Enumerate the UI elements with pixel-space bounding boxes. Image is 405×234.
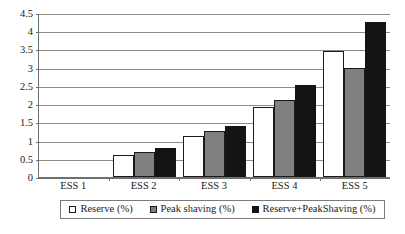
legend-entry: Peak shaving (%) bbox=[150, 204, 235, 215]
y-axis-tick-label: 2 bbox=[5, 100, 33, 111]
gray-square-icon bbox=[150, 206, 157, 213]
y-axis-tick-label: 1 bbox=[5, 136, 33, 147]
y-axis-tick-label: 4.5 bbox=[5, 9, 33, 20]
bar bbox=[295, 85, 316, 177]
x-axis-tick-labels: ESS 1ESS 2ESS 3ESS 4ESS 5 bbox=[38, 180, 390, 193]
x-axis-tick-label: ESS 2 bbox=[108, 180, 178, 193]
bar-group-ess-1 bbox=[39, 14, 109, 177]
legend-label: Reserve (%) bbox=[80, 204, 132, 215]
y-axis-tick-mark bbox=[36, 178, 39, 179]
bar bbox=[183, 136, 204, 177]
bar-groups bbox=[39, 14, 390, 177]
legend-entry: Reserve+PeakShaving (%) bbox=[252, 204, 376, 215]
y-axis-tick-label: 2.5 bbox=[5, 82, 33, 93]
bar-group-ess-2 bbox=[109, 14, 179, 177]
bar bbox=[134, 152, 155, 178]
legend-label: Peak shaving (%) bbox=[161, 204, 235, 215]
x-axis-tick-label: ESS 3 bbox=[179, 180, 249, 193]
bar bbox=[365, 22, 386, 177]
plot-area bbox=[38, 14, 390, 178]
y-axis-tick-label: 3.5 bbox=[5, 45, 33, 56]
legend-entry: Reserve (%) bbox=[69, 204, 132, 215]
y-axis-tick-label: 0 bbox=[5, 173, 33, 184]
y-axis-tick-label: 4 bbox=[5, 27, 33, 38]
bar bbox=[253, 107, 274, 177]
bar bbox=[155, 148, 176, 177]
bar bbox=[344, 68, 365, 177]
bar bbox=[225, 126, 246, 177]
bar bbox=[323, 51, 344, 177]
y-axis-tick-label: 1.5 bbox=[5, 118, 33, 129]
bar-group-ess-4 bbox=[250, 14, 320, 177]
bar-group-ess-5 bbox=[320, 14, 390, 177]
bar bbox=[113, 155, 134, 177]
y-axis-tick-label: 0.5 bbox=[5, 155, 33, 166]
bar bbox=[274, 100, 295, 177]
chart-legend: Reserve (%)Peak shaving (%)Reserve+PeakS… bbox=[60, 200, 385, 219]
bar-chart: 00.511.522.533.544.5 ESS 1ESS 2ESS 3ESS … bbox=[0, 0, 405, 234]
bar-group-ess-3 bbox=[179, 14, 249, 177]
black-square-icon bbox=[252, 206, 259, 213]
x-axis-tick-label: ESS 1 bbox=[38, 180, 108, 193]
bar bbox=[204, 131, 225, 177]
legend-label: Reserve+PeakShaving (%) bbox=[263, 204, 376, 215]
y-axis-tick-label: 3 bbox=[5, 63, 33, 74]
x-axis-tick-label: ESS 4 bbox=[249, 180, 319, 193]
white-square-icon bbox=[69, 206, 76, 213]
x-axis-tick-label: ESS 5 bbox=[320, 180, 390, 193]
gridline bbox=[39, 178, 390, 179]
